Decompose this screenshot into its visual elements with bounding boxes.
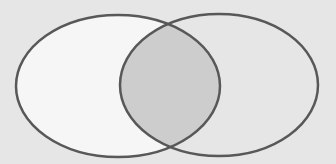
venn-diagram [0,0,336,164]
